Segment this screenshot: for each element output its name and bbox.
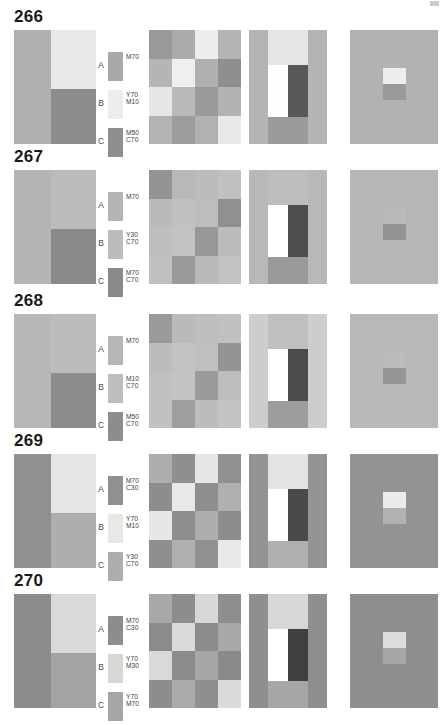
row-number: 269 bbox=[14, 432, 43, 449]
checkerboard-grid bbox=[149, 170, 241, 284]
checkerboard-cell bbox=[195, 116, 218, 145]
checkerboard-cell bbox=[195, 87, 218, 116]
bar-dark bbox=[288, 205, 308, 256]
legend-swatch bbox=[108, 514, 123, 543]
checkerboard-cell bbox=[218, 651, 241, 680]
legend-code: Y70 bbox=[126, 693, 139, 700]
region-bottom-band bbox=[268, 401, 309, 428]
center-patch bbox=[383, 68, 406, 100]
legend-swatch bbox=[108, 90, 123, 119]
checkerboard-cell bbox=[195, 540, 218, 569]
region-bottom-right bbox=[51, 229, 96, 284]
bar-light bbox=[268, 489, 288, 540]
checkerboard-cell bbox=[218, 454, 241, 483]
checkerboard-cell bbox=[195, 511, 218, 540]
checkerboard-cell bbox=[218, 199, 241, 228]
panel-centered-patch bbox=[350, 594, 438, 708]
legend-color-codes: M70 bbox=[126, 53, 139, 60]
checkerboard-cell bbox=[172, 30, 195, 59]
bar-dark bbox=[288, 629, 308, 680]
legend-color-codes: M50C70 bbox=[126, 413, 139, 428]
legend-code: C70 bbox=[126, 136, 139, 143]
legend-code: M70 bbox=[126, 193, 139, 200]
legend-code: M50 bbox=[126, 129, 139, 136]
region-left bbox=[14, 454, 51, 568]
region-top-band bbox=[268, 314, 309, 349]
region-top-band bbox=[268, 454, 309, 489]
checkerboard-cell bbox=[149, 511, 172, 540]
legend-swatch bbox=[108, 374, 123, 403]
legend-code: M10 bbox=[126, 375, 139, 382]
checkerboard-cell bbox=[195, 256, 218, 285]
checkerboard-cell bbox=[195, 594, 218, 623]
legend-letter: C bbox=[96, 277, 106, 286]
legend-code: M50 bbox=[126, 413, 139, 420]
checkerboard-cell bbox=[218, 623, 241, 652]
legend-code: Y30 bbox=[126, 553, 138, 560]
checkerboard-grid bbox=[149, 454, 241, 568]
checkerboard-cell bbox=[218, 371, 241, 400]
legend-entry: BY30C70 bbox=[96, 230, 149, 260]
legend-entry: AM70 bbox=[96, 192, 149, 222]
checkerboard-cell bbox=[195, 59, 218, 88]
checkerboard-cell bbox=[195, 30, 218, 59]
legend-color-codes: Y30C70 bbox=[126, 231, 138, 246]
legend-code: M70 bbox=[126, 269, 139, 276]
legend-swatch bbox=[108, 128, 123, 157]
checkerboard-cell bbox=[172, 116, 195, 145]
panel-split-field bbox=[14, 314, 96, 428]
checkerboard-cell bbox=[218, 87, 241, 116]
legend-letter: B bbox=[96, 99, 106, 108]
legend-entry: BY70M10 bbox=[96, 514, 149, 544]
checkerboard-cell bbox=[218, 116, 241, 145]
checkerboard-cell bbox=[172, 623, 195, 652]
panel-checkerboard bbox=[149, 30, 241, 144]
legend-code: M70 bbox=[126, 337, 139, 344]
row-number: 266 bbox=[14, 8, 43, 25]
panel-centered-patch bbox=[350, 170, 438, 284]
region-top-right bbox=[51, 170, 96, 229]
checkerboard-cell bbox=[218, 256, 241, 285]
region-top-right bbox=[51, 314, 96, 373]
legend-color-codes: M70 bbox=[126, 193, 139, 200]
region-left bbox=[14, 594, 51, 708]
panel-bars bbox=[249, 454, 327, 568]
legend-code: M70 bbox=[126, 700, 139, 707]
legend-letter: C bbox=[96, 421, 106, 430]
panel-checkerboard bbox=[149, 594, 241, 708]
panel-checkerboard bbox=[149, 170, 241, 284]
legend-letter: A bbox=[96, 485, 106, 494]
checkerboard-cell bbox=[195, 314, 218, 343]
region-bottom-right bbox=[51, 513, 96, 568]
bar-light bbox=[268, 629, 288, 680]
checkerboard-cell bbox=[195, 454, 218, 483]
checkerboard-cell bbox=[218, 511, 241, 540]
region-bottom-right bbox=[51, 89, 96, 144]
checkerboard-cell bbox=[149, 594, 172, 623]
checkerboard-cell bbox=[172, 87, 195, 116]
checkerboard-cell bbox=[218, 400, 241, 429]
panel-bars bbox=[249, 170, 327, 284]
center-patch bbox=[383, 352, 406, 384]
checkerboard-grid bbox=[149, 594, 241, 708]
center-patch-top bbox=[383, 632, 406, 648]
region-bottom-band bbox=[268, 117, 309, 144]
checkerboard-cell bbox=[218, 170, 241, 199]
legend-code: C70 bbox=[126, 238, 138, 245]
checkerboard-cell bbox=[149, 199, 172, 228]
checkerboard-cell bbox=[218, 680, 241, 709]
legend-swatch bbox=[108, 654, 123, 683]
checkerboard-cell bbox=[172, 594, 195, 623]
color-legend: AM70BM10C70CM50C70 bbox=[96, 336, 149, 450]
region-top-right bbox=[51, 594, 96, 653]
region-top-right bbox=[51, 454, 96, 513]
panel-group: AM70C30BY70M30CY70M70 bbox=[0, 594, 445, 708]
bar-dark bbox=[288, 489, 308, 540]
panel-checkerboard bbox=[149, 314, 241, 428]
legend-letter: A bbox=[96, 625, 106, 634]
center-patch-top bbox=[383, 352, 406, 368]
bar-light bbox=[268, 349, 288, 400]
legend-swatch bbox=[108, 230, 123, 259]
legend-code: M10 bbox=[126, 98, 139, 105]
